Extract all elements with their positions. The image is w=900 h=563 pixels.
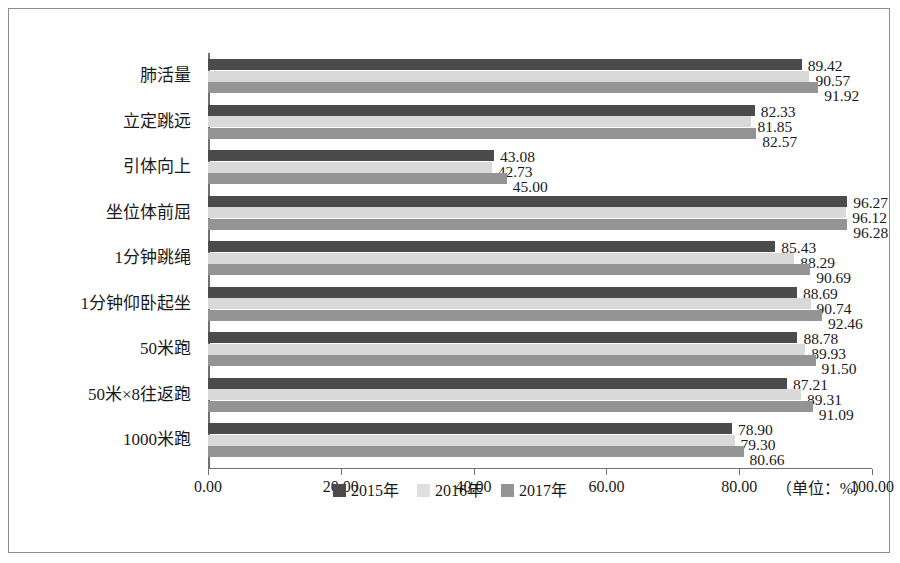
legend-item-2017年[interactable]: 2017年: [501, 477, 567, 501]
unit-note: （单位：%）: [776, 475, 869, 499]
plot-area: 0.0020.0040.0060.0080.00100.00 肺活量89.429…: [200, 45, 872, 469]
x-tick-mark: [606, 469, 607, 475]
bar-2017年-1000米跑: [208, 446, 744, 457]
bar-2015年-立定跳远: [208, 105, 755, 116]
bar-2015年-1000米跑: [208, 423, 732, 434]
bar-2016年-1000米跑: [208, 435, 735, 446]
bar-value-label: 91.50: [822, 361, 857, 377]
bar-value-label: 91.09: [819, 407, 854, 423]
bar-2017年-50米跑: [208, 355, 816, 366]
chart-legend: 2015年2016年2017年: [9, 477, 891, 501]
bar-value-label: 96.27: [853, 195, 888, 211]
bar-value-label: 82.33: [761, 104, 796, 120]
bar-2017年-立定跳远: [208, 128, 756, 139]
bar-2017年-50米×8往返跑: [208, 401, 813, 412]
chart-frame: 0.0020.0040.0060.0080.00100.00 肺活量89.429…: [8, 8, 890, 553]
bar-value-label: 90.69: [816, 270, 851, 286]
bar-2016年-肺活量: [208, 71, 809, 82]
legend-swatch-icon: [417, 484, 430, 497]
bar-2015年-坐位体前屈: [208, 196, 847, 207]
bar-value-label: 96.28: [853, 225, 888, 241]
bar-2015年-50米跑: [208, 332, 797, 343]
category-label: 1分钟跳绳: [9, 249, 191, 266]
bar-value-label: 82.57: [762, 134, 797, 150]
bar-2016年-引体向上: [208, 162, 492, 173]
x-tick-mark: [341, 469, 342, 475]
category-label: 立定跳远: [9, 113, 191, 130]
bar-2016年-立定跳远: [208, 116, 751, 127]
category-label: 50米跑: [9, 340, 191, 357]
bar-2016年-50米×8往返跑: [208, 389, 801, 400]
bar-2015年-肺活量: [208, 59, 802, 70]
bar-2016年-1分钟仰卧起坐: [208, 298, 811, 309]
legend-label: 2017年: [519, 482, 567, 499]
bar-value-label: 92.46: [828, 316, 863, 332]
category-label: 50米×8往返跑: [9, 386, 191, 403]
category-label: 1000米跑: [9, 431, 191, 448]
category-label: 1分钟仰卧起坐: [9, 295, 191, 312]
category-label: 引体向上: [9, 158, 191, 175]
bar-2015年-1分钟仰卧起坐: [208, 287, 797, 298]
x-tick-mark: [739, 469, 740, 475]
bar-2016年-坐位体前屈: [208, 207, 846, 218]
bar-2015年-50米×8往返跑: [208, 378, 787, 389]
bar-2017年-坐位体前屈: [208, 219, 847, 230]
bar-value-label: 91.92: [824, 88, 859, 104]
legend-swatch-icon: [501, 484, 514, 497]
legend-item-2016年[interactable]: 2016年: [417, 477, 483, 501]
bar-2017年-1分钟仰卧起坐: [208, 310, 822, 321]
bar-value-label: 45.00: [513, 179, 548, 195]
bar-2016年-50米跑: [208, 344, 805, 355]
bar-value-label: 81.85: [757, 119, 792, 135]
category-label: 坐位体前屈: [9, 204, 191, 221]
bar-value-label: 80.66: [750, 452, 785, 468]
x-tick-mark: [872, 469, 873, 475]
bar-2017年-1分钟跳绳: [208, 264, 810, 275]
category-label: 肺活量: [9, 67, 191, 84]
bar-2016年-1分钟跳绳: [208, 253, 794, 264]
legend-item-2015年[interactable]: 2015年: [333, 477, 399, 501]
bar-2017年-引体向上: [208, 173, 507, 184]
legend-label: 2016年: [435, 482, 483, 499]
x-tick-mark: [208, 469, 209, 475]
bar-2015年-1分钟跳绳: [208, 241, 775, 252]
bar-value-label: 96.12: [852, 210, 887, 226]
legend-swatch-icon: [333, 484, 346, 497]
bar-2017年-肺活量: [208, 82, 818, 93]
bar-2015年-引体向上: [208, 150, 494, 161]
legend-label: 2015年: [351, 482, 399, 499]
x-axis-line: [208, 468, 872, 469]
x-tick-mark: [474, 469, 475, 475]
